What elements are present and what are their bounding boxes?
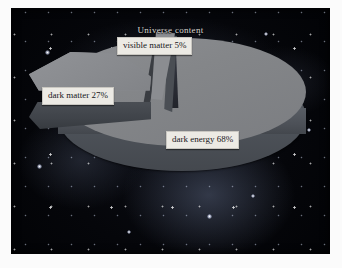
data-label-visible-matter[interactable]: visible matter 5%	[117, 37, 192, 55]
starfield-background-image: Universe content visible matter 5% dark …	[11, 8, 330, 254]
slide-frame: Universe content visible matter 5% dark …	[0, 0, 342, 268]
pie-slice-dark-matter-side	[29, 102, 151, 130]
data-label-dark-matter[interactable]: dark matter 27%	[42, 87, 114, 105]
chart-title: Universe content	[11, 25, 330, 35]
data-label-dark-energy[interactable]: dark energy 68%	[166, 131, 239, 149]
